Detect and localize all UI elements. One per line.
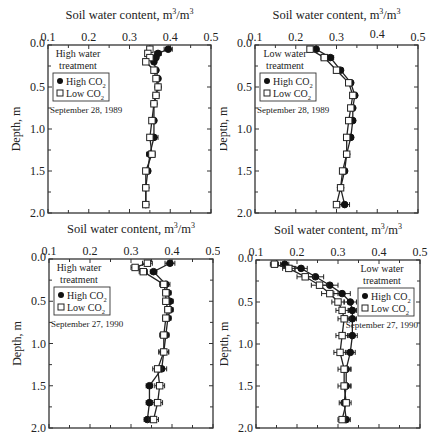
legend: Low watertreatmentHigh CO2Low CO2Septemb… xyxy=(257,48,330,115)
x-tick-label: 0.5 xyxy=(204,30,219,44)
data-point-low-co2 xyxy=(341,383,347,389)
y-tick-label: 2.0 xyxy=(31,421,46,435)
data-point-low-co2 xyxy=(333,67,339,73)
data-point-low-co2 xyxy=(339,168,345,174)
data-point-low-co2 xyxy=(321,54,327,60)
data-point-low-co2 xyxy=(161,281,167,287)
data-point-low-co2 xyxy=(165,307,171,313)
data-point-high-co2 xyxy=(341,201,348,208)
data-point-low-co2 xyxy=(154,366,160,372)
chart-panel-high-water-1990: Soil water content, m3/m3Depth, m0.10.20… xyxy=(0,222,220,447)
legend-marker-low-co2 xyxy=(362,305,368,311)
legend-title: Low water xyxy=(263,48,307,59)
data-point-low-co2 xyxy=(327,290,333,296)
legend-marker-high-co2 xyxy=(57,78,63,84)
data-point-high-co2 xyxy=(150,268,157,275)
data-point-low-co2 xyxy=(163,315,169,321)
x-tick-label: 0.2 xyxy=(81,30,96,44)
data-point-high-co2 xyxy=(167,260,174,267)
x-tick-label: 0.2 xyxy=(290,245,305,259)
data-point-low-co2 xyxy=(350,92,356,98)
x-tick-label: 0.5 xyxy=(413,245,428,259)
legend-marker-high-co2 xyxy=(58,292,64,298)
data-point-high-co2 xyxy=(327,54,334,61)
x-tick-label: 0.4 xyxy=(370,27,385,41)
x-tick-label: 0.3 xyxy=(329,30,344,44)
data-point-low-co2 xyxy=(302,274,308,280)
data-point-high-co2 xyxy=(146,382,153,389)
legend-date: September 28, 1989 xyxy=(50,105,123,115)
y-tick-label: 0.5 xyxy=(237,80,252,94)
y-tick-label: 1.5 xyxy=(31,379,46,393)
legend-marker-high-co2 xyxy=(362,293,368,299)
y-tick-label: 0.0 xyxy=(237,36,252,50)
data-point-low-co2 xyxy=(346,80,352,86)
y-tick-label: 0.5 xyxy=(30,80,45,94)
legend-date: September 27, 1990 xyxy=(51,319,124,329)
x-tick-label: 0.4 xyxy=(372,245,387,259)
y-tick-label: 1.5 xyxy=(238,379,253,393)
legend: High watertreatmentHigh CO2Low CO2Septem… xyxy=(50,48,123,115)
data-point-low-co2 xyxy=(346,117,352,123)
x-axis-title: Soil water content, m3/m3 xyxy=(272,7,400,22)
data-point-low-co2 xyxy=(143,185,149,191)
data-point-low-co2 xyxy=(341,366,347,372)
data-point-low-co2 xyxy=(163,298,169,304)
data-point-low-co2 xyxy=(149,117,155,123)
y-tick-label: 2.0 xyxy=(30,206,45,220)
legend-date: September 27, 1990 xyxy=(346,320,419,330)
y-tick-label: 0.0 xyxy=(31,250,46,264)
data-point-low-co2 xyxy=(271,261,277,267)
y-tick-label: 1.0 xyxy=(31,337,46,351)
x-tick-label: 0.5 xyxy=(411,30,426,44)
data-point-low-co2 xyxy=(143,201,149,207)
data-point-low-co2 xyxy=(339,416,345,422)
data-point-low-co2 xyxy=(147,134,153,140)
data-point-low-co2 xyxy=(337,349,343,355)
data-point-high-co2 xyxy=(298,265,305,272)
data-point-low-co2 xyxy=(343,400,349,406)
y-tick-label: 1.0 xyxy=(237,122,252,136)
x-tick-label: 0.3 xyxy=(124,244,139,258)
data-point-low-co2 xyxy=(339,332,345,338)
data-point-high-co2 xyxy=(165,46,172,53)
x-tick-label: 0.3 xyxy=(122,30,137,44)
data-point-low-co2 xyxy=(307,46,313,52)
legend-title: treatment xyxy=(59,60,97,71)
chart-panel-low-water-1990: Soil water content, m3/m3Depth, m0.10.20… xyxy=(220,222,440,447)
x-axis-title: Soil water content, m3/m3 xyxy=(65,7,193,22)
data-point-low-co2 xyxy=(155,84,161,90)
data-point-low-co2 xyxy=(151,101,157,107)
data-point-low-co2 xyxy=(161,332,167,338)
x-tick-label: 0.2 xyxy=(288,30,303,44)
y-tick-label: 0.5 xyxy=(31,294,46,308)
data-point-low-co2 xyxy=(153,75,159,81)
data-point-low-co2 xyxy=(151,67,157,73)
data-point-low-co2 xyxy=(337,185,343,191)
x-tick-label: 0.5 xyxy=(206,244,221,258)
x-tick-label: 0.4 xyxy=(163,30,178,44)
data-point-high-co2 xyxy=(347,299,354,306)
legend-date: September 28, 1989 xyxy=(257,105,330,115)
legend: Low watertreatmentHigh CO2Low CO2Septemb… xyxy=(346,263,419,330)
data-point-low-co2 xyxy=(153,92,159,98)
data-point-low-co2 xyxy=(157,383,163,389)
data-point-low-co2 xyxy=(339,307,345,313)
legend-title: treatment xyxy=(266,60,304,71)
y-axis-title: Depth, m xyxy=(10,321,24,366)
x-axis-title: Soil water content, m3/m3 xyxy=(67,222,195,236)
data-point-low-co2 xyxy=(150,416,156,422)
y-tick-label: 0.0 xyxy=(238,251,253,265)
legend-marker-low-co2 xyxy=(57,90,63,96)
data-point-low-co2 xyxy=(348,105,354,111)
data-point-low-co2 xyxy=(132,264,138,270)
data-point-low-co2 xyxy=(143,59,149,65)
data-point-low-co2 xyxy=(154,399,160,405)
data-point-low-co2 xyxy=(163,290,169,296)
y-tick-label: 1.5 xyxy=(237,164,252,178)
legend-title: High water xyxy=(57,262,102,273)
y-tick-label: 1.0 xyxy=(30,122,45,136)
chart-panel-low-water-1989: Soil water content, m3/m3Depth, m0.10.20… xyxy=(220,0,440,222)
y-tick-label: 0.0 xyxy=(30,36,45,50)
legend-title: High water xyxy=(56,48,101,59)
